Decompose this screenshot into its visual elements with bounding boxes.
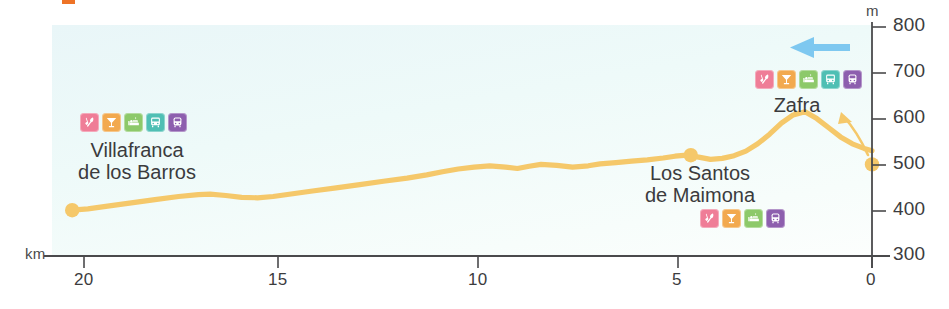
y-axis-unit-label: m (866, 2, 879, 19)
y-tick-800: 800 (893, 14, 925, 36)
y-tick-600: 600 (893, 106, 925, 128)
restaurant-icon[interactable] (80, 113, 99, 132)
place-label-villafranca: Villafranca de los Barros (0, 139, 302, 183)
place-label-zafra: Zafra (737, 94, 857, 116)
elevation-profile-chart: km m 800 700 600 500 400 300 20 15 10 5 … (0, 0, 949, 309)
x-tick-5: 5 (672, 270, 682, 290)
y-tick-400: 400 (893, 198, 925, 220)
place-label-los-santos: Los Santos de Maimona (590, 162, 810, 206)
hotel-icon[interactable] (124, 113, 143, 132)
amenity-icons-los-santos[interactable] (700, 209, 785, 228)
place-label-line-1: Los Santos (590, 162, 810, 184)
train-icon[interactable] (766, 209, 785, 228)
zafra-pointer-arrow (838, 112, 868, 155)
amenity-icons-zafra[interactable] (755, 70, 862, 89)
start-marker-villafranca (65, 203, 79, 217)
place-label-line-2: de los Barros (0, 161, 302, 183)
direction-arrow (790, 37, 850, 58)
x-tick-0: 0 (866, 270, 876, 290)
place-label-line-2: de Maimona (590, 184, 810, 206)
train-icon[interactable] (168, 113, 187, 132)
y-axis-ticks (872, 27, 886, 256)
x-tick-10: 10 (468, 270, 487, 290)
restaurant-icon[interactable] (755, 70, 774, 89)
place-label-line-1: Zafra (737, 94, 857, 116)
waypoint-marker-los-santos (684, 148, 698, 162)
amenity-icons-villafranca[interactable] (80, 113, 187, 132)
bar-icon[interactable] (102, 113, 121, 132)
bus-icon[interactable] (821, 70, 840, 89)
y-tick-500: 500 (893, 152, 925, 174)
train-icon[interactable] (843, 70, 862, 89)
y-tick-300: 300 (893, 243, 925, 265)
x-axis-ticks (84, 256, 872, 268)
restaurant-icon[interactable] (700, 209, 719, 228)
bar-icon[interactable] (777, 70, 796, 89)
x-tick-20: 20 (74, 270, 93, 290)
hotel-icon[interactable] (744, 209, 763, 228)
y-tick-700: 700 (893, 60, 925, 82)
bar-icon[interactable] (722, 209, 741, 228)
bus-icon[interactable] (146, 113, 165, 132)
x-axis-unit-label: km (25, 245, 45, 262)
hotel-icon[interactable] (799, 70, 818, 89)
x-tick-15: 15 (268, 270, 287, 290)
place-label-line-1: Villafranca (0, 139, 302, 161)
